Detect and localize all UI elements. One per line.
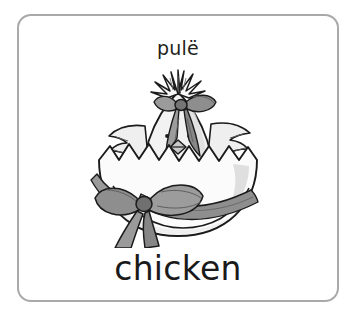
translation-word: pulë — [19, 39, 337, 58]
hatching-chick-icon — [83, 68, 273, 248]
chick-illustration — [83, 68, 273, 248]
flashcard: pulë — [17, 14, 339, 302]
target-word: chicken — [19, 252, 337, 285]
